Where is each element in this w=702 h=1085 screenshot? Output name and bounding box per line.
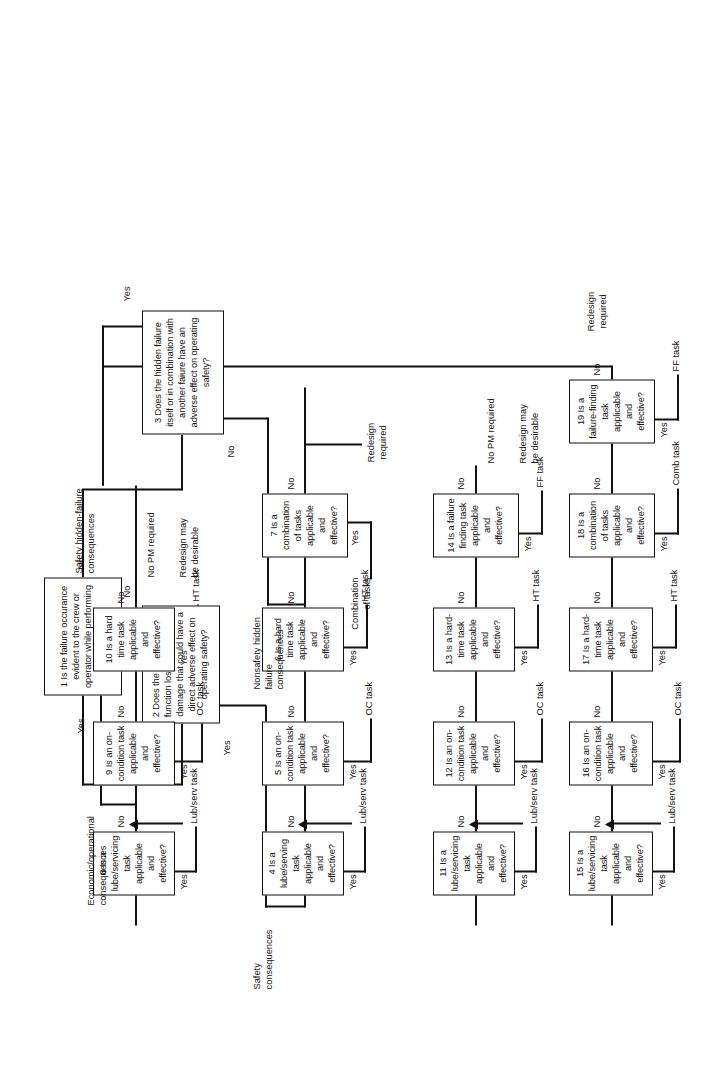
edge-label-n17-no: No: [592, 591, 604, 603]
edge-n2-yes-v: [220, 705, 266, 707]
outcome-lub-serv-8: Lub/serv task: [189, 768, 201, 823]
node-4-box: 4 Is a lube/serving task applicable and …: [262, 831, 344, 895]
outcome-redesign-required-19: Redesign required: [586, 279, 609, 343]
category-label-safety: Safety consequences: [252, 929, 275, 989]
category-label-nonsafety-hidden: Nonsafety hidden failure consequences: [252, 617, 287, 689]
n8-arrow-stem: [137, 823, 183, 825]
edge-label-n17-yes: Yes: [657, 650, 669, 665]
edge-label-n11-yes: Yes: [519, 874, 531, 889]
outcome-lub-serv-4: Lub/serv task: [358, 768, 370, 823]
n12-yes-v: [515, 761, 543, 763]
node-19-box: 19 Is a failure-finding task applicable …: [569, 379, 655, 443]
edge-label-n1-yes: Yes: [76, 718, 88, 733]
outcome-oc-5: OC task: [364, 681, 376, 715]
edge-label-n7-no: No: [286, 477, 298, 489]
edge-label-n6-yes: Yes: [348, 650, 360, 665]
n14-yes-v: [519, 533, 543, 535]
edge-n3-yes-v: [102, 326, 144, 328]
edge-label-n7-yes: Yes: [350, 530, 362, 545]
n12-yes-h: [541, 718, 543, 762]
n15-arrow-head: [605, 819, 614, 829]
edge-label-n12-yes: Yes: [519, 764, 531, 779]
n14-yes-h: [541, 490, 543, 534]
outcome-ff-19: FF task: [671, 340, 683, 371]
n19-yes-h: [677, 374, 679, 420]
n5-yes-h: [370, 718, 372, 762]
n15-arrow-stem: [613, 823, 661, 825]
n17-yes-h: [675, 604, 677, 648]
node-15-box: 15 Is a lube/servicing task applicable a…: [569, 831, 653, 895]
figure-page: 1 Is the failure occurance evident to th…: [0, 0, 702, 1085]
edge-label-n5-yes: Yes: [348, 764, 360, 779]
n16-yes-h: [679, 718, 681, 762]
n5-yes-v: [344, 761, 372, 763]
category-label-economic: Economic/operational consequences: [86, 816, 109, 905]
edge-label-n2-yes: Yes: [222, 740, 234, 755]
node-10-box: 10 Is a hard time task applicable and ef…: [93, 607, 175, 671]
edge-label-n16-no: No: [592, 705, 604, 717]
edge-label-n19-no: No: [592, 363, 604, 375]
n4-yes-h: [364, 826, 366, 872]
edge-label-n16-yes: Yes: [657, 764, 669, 779]
edge-label-n9-yes: Yes: [179, 764, 191, 779]
edge-label-n4-yes: Yes: [348, 874, 360, 889]
outcome-comb-18: Comb task: [671, 441, 683, 485]
edge-label-n15-no: No: [592, 815, 604, 827]
n9-yes-v: [175, 761, 203, 763]
outcome-lub-serv-15: Lub/serv task: [667, 768, 679, 823]
n9-yes-h: [201, 718, 203, 762]
edge-label-n14-no: No: [456, 477, 468, 489]
node-12-box: 12 Is an on-condition task applicable an…: [433, 721, 515, 785]
n11-arrow-stem: [477, 823, 523, 825]
n15-yes-h: [673, 826, 675, 872]
edge-label-n4-no: No: [286, 815, 298, 827]
edge-label-n10-yes: Yes: [179, 650, 191, 665]
outcome-redesign-desirable-10: Redesign may be desirable: [178, 518, 201, 577]
node-9-box: 9 Is an on-condition task applicable and…: [93, 721, 175, 785]
edge-label-n6-no: No: [286, 591, 298, 603]
edge-label-n13-no: No: [456, 591, 468, 603]
node-16-box: 16 Is an on-condition task applicable an…: [569, 721, 653, 785]
outcome-oc-12: OC task: [535, 681, 547, 715]
edge-label-n8-yes: Yes: [179, 874, 191, 889]
edge-n3-no-v: [224, 418, 268, 420]
n18-yes-v: [655, 533, 679, 535]
category-label-safety-hidden: Safety hidden-failure consequences: [74, 488, 97, 573]
edge-label-n12-no: No: [456, 705, 468, 717]
n8-yes-v: [175, 871, 197, 873]
n6-yes-v: [344, 647, 368, 649]
outcome-oc-9: OC task: [195, 681, 207, 715]
spine-economic-drop: [100, 804, 136, 806]
edge-label-n18-no: No: [592, 477, 604, 489]
n11-yes-v: [515, 871, 537, 873]
n17-yes-v: [653, 647, 677, 649]
edge-label-n19-yes: Yes: [659, 422, 671, 437]
edge-n1-no-to-n3: [181, 434, 183, 490]
n8-arrow-head: [129, 819, 138, 829]
edge-label-n3-yes: Yes: [122, 286, 134, 301]
n4-arrow-stem: [306, 823, 352, 825]
edge-label-n13-yes: Yes: [519, 650, 531, 665]
n8-yes-h: [195, 826, 197, 872]
node-11-box: 11 Is a lube/servicing task applicable a…: [433, 831, 515, 895]
edge-label-n14-yes: Yes: [523, 536, 535, 551]
edge-label-n8-no: No: [116, 815, 128, 827]
n7-yes-v: [348, 522, 372, 524]
node-14-box: 14 Is a failure finding task applicable …: [433, 493, 519, 557]
spine-nonsafety-drop: [267, 604, 305, 606]
outcome-no-pm-14: No PM required: [486, 398, 498, 463]
edge-label-n15-yes: Yes: [657, 874, 669, 889]
edge-label-n10-no: No: [116, 591, 128, 603]
outcome-lub-serv-11: Lub/serv task: [529, 768, 541, 823]
edge-label-n11-no: No: [456, 815, 468, 827]
outcome-oc-16: OC task: [673, 681, 685, 715]
edge-n1-yes-line: [82, 695, 84, 785]
node-5-box: 5 Is an on-condition task applicable and…: [262, 721, 344, 785]
n13-yes-h: [537, 604, 539, 648]
n4-arrow-head: [298, 819, 307, 829]
node-7-box: 7 Is a combination of tasks applicable a…: [262, 493, 348, 557]
node-17-box: 17 Is a hard-time task applicable and ef…: [569, 607, 653, 671]
outcome-no-pm-10: No PM required: [146, 512, 158, 577]
node-18-box: 18 Is a combination of tasks applicable …: [569, 493, 655, 557]
n11-arrow-head: [469, 819, 478, 829]
